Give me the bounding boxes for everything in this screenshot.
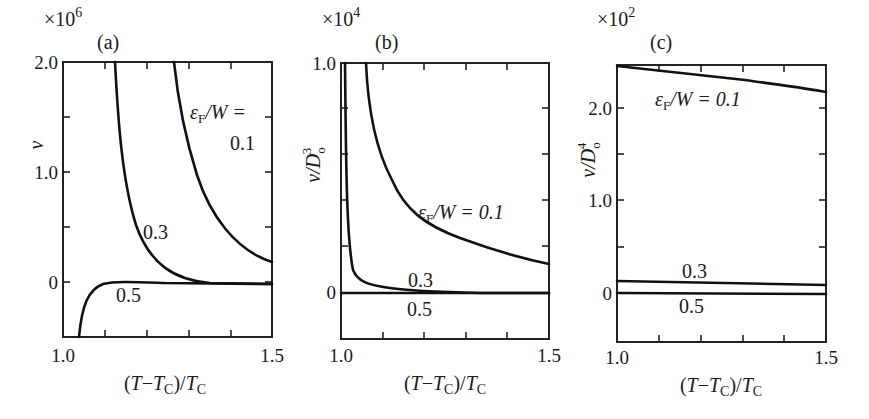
panel-b-label-0.3: 0.3 bbox=[408, 269, 433, 291]
panel-a-multiplier: ×106 bbox=[44, 5, 82, 30]
panel-c-legend: εF/W = 0.1 bbox=[655, 88, 741, 113]
panel-b-xtick-1.0: 1.0 bbox=[329, 345, 353, 366]
panel-c-label: (c) bbox=[650, 31, 672, 54]
panel-b-label-0.5: 0.5 bbox=[407, 298, 432, 320]
panel-c-xtick-1.5: 1.5 bbox=[814, 347, 838, 368]
panel-b: ×104 (b) 1.0 0 1.0 1.5 ν/Do3 (T−TC) bbox=[299, 5, 561, 397]
panel-a-ytick-0: 0 bbox=[49, 272, 59, 293]
panel-b-curve-0.3 bbox=[345, 63, 549, 293]
panel-a-label-0.5: 0.5 bbox=[116, 284, 141, 306]
panel-c-xtick-1.0: 1.0 bbox=[605, 347, 629, 368]
panel-b-ylabel: ν/Do3 bbox=[299, 147, 328, 182]
panel-c-ytick-2: 2.0 bbox=[588, 98, 612, 119]
panel-c-ytick-0: 0 bbox=[603, 283, 613, 304]
panel-a-xlabel: (T−TC)/TC bbox=[124, 372, 206, 397]
panel-c-label-0.3: 0.3 bbox=[682, 260, 707, 282]
panel-b-curve-0.1 bbox=[366, 63, 549, 264]
panel-b-xtick-1.5: 1.5 bbox=[537, 345, 561, 366]
panel-c-xlabel: (T−TC)/TC bbox=[680, 374, 762, 399]
panel-c-multiplier: ×102 bbox=[597, 5, 635, 30]
panel-a: ×106 (a) 2.0 1.0 0 1.0 1.5 bbox=[25, 5, 284, 397]
panel-c-curve-0.5 bbox=[617, 293, 826, 294]
panel-a-curve-0.1 bbox=[174, 62, 272, 262]
panel-a-ytick-2: 2.0 bbox=[34, 52, 58, 73]
panel-a-legend: εF/W = bbox=[190, 101, 246, 126]
panel-b-ytick-1: 1.0 bbox=[312, 53, 336, 74]
panel-b-legend: εF/W = 0.1 bbox=[418, 201, 504, 226]
panel-a-label-0.3: 0.3 bbox=[143, 221, 168, 243]
panel-c-yticks bbox=[617, 108, 826, 293]
panel-a-ytick-1: 1.0 bbox=[34, 162, 58, 183]
panel-a-ylabel: ν bbox=[25, 140, 47, 149]
panel-a-xtick-1.0: 1.0 bbox=[51, 345, 75, 366]
panel-a-label: (a) bbox=[97, 31, 119, 54]
panel-a-xtick-1.5: 1.5 bbox=[260, 345, 284, 366]
panel-b-xlabel: (T−TC)/TC bbox=[404, 372, 486, 397]
panel-b-yticks bbox=[341, 108, 549, 246]
panel-b-label: (b) bbox=[375, 31, 398, 54]
panel-a-curve-0.5 bbox=[79, 282, 272, 337]
panel-c-ylabel: ν/Do4 bbox=[574, 142, 603, 177]
figure-canvas: ×106 (a) 2.0 1.0 0 1.0 1.5 bbox=[0, 0, 869, 419]
panel-c-curve-0.3 bbox=[617, 281, 826, 285]
panel-c-ytick-1: 1.0 bbox=[588, 190, 612, 211]
panel-c-label-0.5: 0.5 bbox=[679, 295, 704, 317]
panel-c: ×102 (c) 2.0 1.0 0 1.0 1.5 ν bbox=[574, 5, 838, 399]
panel-b-ytick-0: 0 bbox=[327, 282, 337, 303]
panel-b-multiplier: ×104 bbox=[322, 5, 360, 30]
panel-a-legend-value: 0.1 bbox=[230, 132, 255, 154]
